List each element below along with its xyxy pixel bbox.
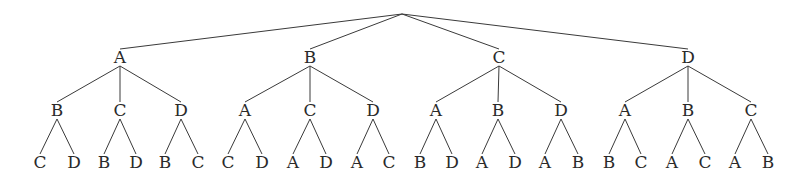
- tree-node-level-3: C: [382, 152, 395, 172]
- tree-edge: [751, 119, 768, 154]
- tree-diagram: ABCDCBDDBCBACDCADDACCABDBADDABDABCBACCAB: [0, 0, 803, 178]
- tree-edge: [688, 66, 751, 102]
- tree-edge: [228, 119, 245, 154]
- tree-node-level-3: C: [33, 152, 46, 172]
- tree-node-level-3: B: [98, 152, 111, 172]
- tree-node-level-2: D: [366, 100, 380, 120]
- tree-edge: [120, 119, 136, 154]
- tree-edge: [420, 119, 436, 154]
- tree-edge: [40, 119, 57, 154]
- tree-node-level-3: A: [665, 152, 679, 172]
- tree-edges: [40, 14, 768, 154]
- tree-node-level-3: B: [762, 152, 775, 172]
- tree-edge: [436, 119, 452, 154]
- tree-edge: [310, 66, 373, 102]
- tree-edge: [245, 119, 262, 154]
- tree-node-level-3: B: [159, 152, 172, 172]
- tree-node-level-3: D: [129, 152, 143, 172]
- tree-node-level-3: A: [538, 152, 552, 172]
- tree-node-level-2: D: [174, 100, 188, 120]
- tree-edge: [310, 119, 326, 154]
- tree-edge: [57, 66, 120, 102]
- tree-edge: [625, 119, 641, 154]
- tree-node-level-3: D: [319, 152, 333, 172]
- tree-node-level-3: A: [728, 152, 742, 172]
- tree-node-level-3: C: [191, 152, 204, 172]
- tree-node-level-3: D: [508, 152, 522, 172]
- tree-node-level-3: B: [603, 152, 616, 172]
- tree-edge: [498, 66, 499, 102]
- tree-node-level-3: C: [221, 152, 234, 172]
- tree-edge: [499, 66, 561, 102]
- tree-edge: [498, 119, 515, 154]
- tree-edge: [120, 66, 181, 102]
- tree-edge: [402, 14, 688, 49]
- tree-node-level-3: B: [572, 152, 585, 172]
- tree-edge: [104, 119, 120, 154]
- tree-edge: [357, 119, 373, 154]
- tree-edge: [57, 119, 74, 154]
- tree-node-level-1: A: [113, 47, 127, 67]
- tree-node-level-2: C: [744, 100, 757, 120]
- tree-node-level-2: B: [492, 100, 505, 120]
- tree-node-labels: ABCDCBDDBCBACDCADDACCABDBADDABDABCBACCAB: [33, 47, 774, 172]
- tree-edge: [545, 119, 561, 154]
- tree-node-level-2: A: [618, 100, 632, 120]
- tree-edge: [120, 14, 402, 49]
- tree-edge: [672, 119, 688, 154]
- tree-node-level-3: C: [698, 152, 711, 172]
- tree-node-level-2: B: [682, 100, 695, 120]
- tree-edge: [482, 119, 498, 154]
- tree-node-level-1: C: [492, 47, 505, 67]
- tree-edge: [165, 119, 181, 154]
- tree-node-level-2: D: [554, 100, 568, 120]
- tree-node-level-3: D: [255, 152, 269, 172]
- tree-edge: [688, 119, 705, 154]
- tree-edge: [735, 119, 751, 154]
- tree-edge: [181, 119, 198, 154]
- tree-node-level-2: C: [113, 100, 126, 120]
- tree-node-level-2: C: [303, 100, 316, 120]
- tree-edge: [293, 119, 310, 154]
- tree-edge: [625, 66, 688, 102]
- tree-node-level-3: A: [350, 152, 364, 172]
- tree-node-level-1: D: [681, 47, 695, 67]
- tree-edge: [373, 119, 389, 154]
- tree-node-level-3: C: [634, 152, 647, 172]
- tree-node-level-3: A: [286, 152, 300, 172]
- tree-node-level-3: D: [67, 152, 81, 172]
- tree-edge: [436, 66, 499, 102]
- tree-node-level-3: B: [414, 152, 427, 172]
- tree-node-level-3: A: [475, 152, 489, 172]
- tree-edge: [402, 14, 499, 49]
- tree-node-level-2: A: [429, 100, 443, 120]
- tree-node-level-2: A: [238, 100, 252, 120]
- tree-node-level-2: B: [51, 100, 64, 120]
- tree-edge: [561, 119, 578, 154]
- tree-node-level-1: B: [304, 47, 317, 67]
- tree-edge: [609, 119, 625, 154]
- tree-edge: [245, 66, 310, 102]
- tree-node-level-3: D: [445, 152, 459, 172]
